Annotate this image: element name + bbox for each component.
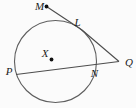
circle-x [15, 21, 97, 103]
tangent-line-m-l-q [47, 7, 120, 62]
figure-svg: M L X P N Q [0, 0, 136, 108]
point-label-n: N [90, 67, 99, 79]
geometry-figure: M L X P N Q [0, 0, 136, 108]
point-m-dot [45, 5, 49, 9]
center-x-dot [50, 58, 54, 62]
point-label-q: Q [125, 56, 133, 68]
point-label-m: M [34, 0, 45, 12]
secant-line-p-n-q [16, 62, 119, 75]
point-label-p: P [5, 65, 13, 77]
center-label-x: X [41, 47, 50, 59]
point-label-l: L [73, 16, 80, 28]
